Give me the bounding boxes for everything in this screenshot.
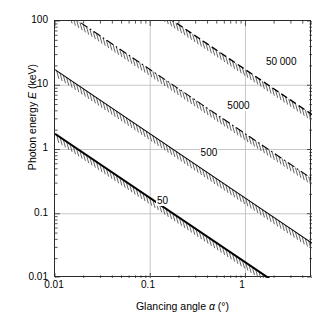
x-tick-label: 0.1 bbox=[141, 280, 155, 290]
figure-log-log-chart: 100 10 1 0.1 0.01 0.01 0.1 1 Photon ener… bbox=[0, 0, 330, 327]
x-tick-label: 1 bbox=[239, 280, 245, 290]
x-axis-title: Glancing angle α (°) bbox=[54, 300, 311, 312]
curve-label-500: 500 bbox=[200, 148, 219, 158]
x-tick-label: 0.01 bbox=[44, 280, 63, 290]
y-axis-title: Photon energy E (keV) bbox=[26, 22, 38, 212]
curve-label-50: 50 bbox=[156, 196, 169, 206]
curve-label-50000: 50 000 bbox=[265, 57, 298, 67]
y-axis-symbol: E bbox=[26, 92, 38, 99]
curve-label-5000: 5000 bbox=[226, 101, 250, 111]
plot-area: 50 500 5000 50 000 bbox=[54, 20, 311, 277]
